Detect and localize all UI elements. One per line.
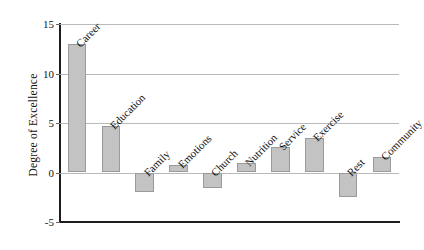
y-axis-tick-label: 10 [26, 69, 54, 79]
bar [102, 126, 121, 173]
y-axis-tick-mark [56, 24, 60, 25]
y-axis-tick-label: -5 [26, 217, 54, 227]
y-axis-tick-label: 15 [26, 19, 54, 29]
y-axis-tick-mark [56, 123, 60, 124]
y-axis-tick-label: 0 [26, 168, 54, 178]
gridline [60, 24, 399, 25]
y-axis-tick-mark [56, 222, 60, 223]
y-axis-tick-mark [56, 74, 60, 75]
bar [305, 138, 324, 173]
y-axis-tick-labels: -5051015 [26, 0, 54, 250]
y-axis-tick-label: 5 [26, 118, 54, 128]
y-axis-tick-mark [56, 173, 60, 174]
bar [68, 44, 87, 173]
gridline [60, 74, 399, 75]
bar [271, 147, 290, 173]
